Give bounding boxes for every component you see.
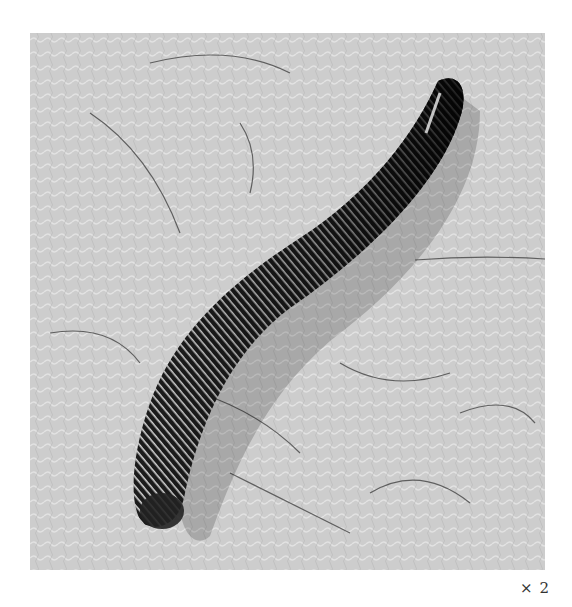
leech-illustration bbox=[30, 33, 545, 570]
leech-photo bbox=[30, 33, 545, 570]
magnification-label: × 2 bbox=[520, 579, 550, 597]
posterior-sucker bbox=[140, 493, 184, 529]
